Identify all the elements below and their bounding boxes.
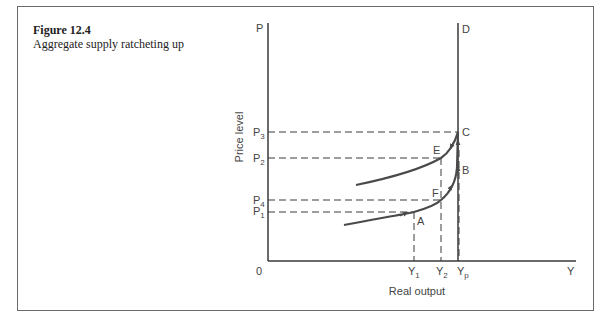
point-label-a: A xyxy=(417,215,425,227)
origin-label: 0 xyxy=(256,265,262,277)
y-axis-label-p: P xyxy=(256,22,263,34)
aggregate-supply-diagram: P D Y 0 Price level Real output P3 P2 P4… xyxy=(0,0,609,326)
point-label-e: E xyxy=(433,144,440,156)
tick-yp: Yp xyxy=(457,265,469,280)
line-label-d: D xyxy=(462,23,470,35)
point-label-b: B xyxy=(462,164,469,176)
point-label-f: F xyxy=(432,187,439,199)
x-axis-label-y: Y xyxy=(567,265,575,277)
point-label-c: C xyxy=(462,126,470,138)
tick-y1: Y1 xyxy=(408,265,420,280)
tick-p2: P2 xyxy=(253,152,265,167)
initial-as-curve xyxy=(344,132,458,225)
tick-y2: Y2 xyxy=(436,265,448,280)
tick-p3: P3 xyxy=(253,126,265,141)
x-axis-title: Real output xyxy=(389,285,445,297)
y-axis-title: Price level xyxy=(233,112,245,163)
